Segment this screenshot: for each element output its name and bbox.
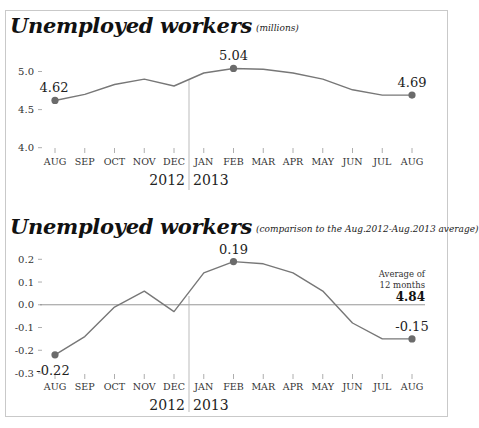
- x-tick-label: SEP: [75, 381, 95, 392]
- x-tick-label: FEB: [223, 156, 244, 167]
- data-point-label: 4.69: [398, 75, 427, 90]
- y-tick-label: 0.1: [18, 277, 34, 288]
- y-tick-label: 4.5: [18, 104, 34, 115]
- year-label-2013: 2013: [193, 172, 229, 188]
- x-tick-label: JAN: [193, 381, 213, 392]
- y-tick-label: -0.1: [15, 322, 34, 333]
- y-tick-label: 0.0: [18, 299, 34, 310]
- y-tick-label: 4.0: [18, 142, 34, 153]
- x-tick-label: MAR: [251, 381, 276, 392]
- x-tick-label: AUG: [400, 156, 423, 167]
- x-tick-label: AUG: [400, 381, 423, 392]
- x-tick-label: APR: [282, 381, 304, 392]
- data-point-marker: [408, 335, 415, 342]
- year-label-2013: 2013: [193, 397, 229, 413]
- data-point-label: -0.22: [36, 363, 69, 378]
- data-point-marker: [51, 97, 58, 104]
- x-tick-label: FEB: [223, 381, 244, 392]
- reference-label-line2: 12 months: [380, 280, 425, 290]
- x-tick-label: JUN: [341, 381, 362, 392]
- year-label-2012: 2012: [149, 172, 185, 188]
- x-tick-label: APR: [282, 156, 304, 167]
- year-label-2012: 2012: [149, 397, 185, 413]
- data-point-marker: [230, 258, 237, 265]
- x-tick-label: OCT: [104, 381, 126, 392]
- x-tick-label: JUL: [372, 156, 392, 167]
- x-tick-label: MAY: [312, 381, 335, 392]
- x-tick-label: JUL: [372, 381, 392, 392]
- data-line: [55, 262, 412, 355]
- reference-value: 4.84: [396, 290, 425, 304]
- x-tick-label: JAN: [193, 156, 213, 167]
- x-tick-label: MAY: [312, 156, 335, 167]
- x-tick-label: JUN: [341, 156, 362, 167]
- x-tick-label: DEC: [163, 156, 185, 167]
- data-point-label: 0.19: [219, 242, 248, 257]
- data-point-label: -0.15: [395, 319, 428, 334]
- x-tick-label: NOV: [133, 156, 156, 167]
- x-tick-label: MAR: [251, 156, 276, 167]
- data-point-label: 5.04: [219, 48, 248, 63]
- x-tick-label: AUG: [43, 381, 66, 392]
- x-tick-label: NOV: [133, 381, 156, 392]
- data-point-marker: [408, 92, 415, 99]
- x-tick-label: OCT: [104, 156, 126, 167]
- y-tick-label: 5.0: [18, 66, 34, 77]
- y-tick-label: -0.3: [15, 368, 34, 379]
- x-tick-label: SEP: [75, 156, 95, 167]
- y-tick-label: -0.2: [15, 345, 34, 356]
- data-point-label: 4.62: [40, 80, 69, 95]
- x-tick-label: DEC: [163, 381, 185, 392]
- x-tick-label: AUG: [43, 156, 66, 167]
- data-point-marker: [230, 65, 237, 72]
- y-tick-label: 0.2: [18, 254, 34, 265]
- reference-label-line1: Average of: [378, 269, 426, 279]
- data-line: [55, 69, 412, 101]
- data-point-marker: [51, 351, 58, 358]
